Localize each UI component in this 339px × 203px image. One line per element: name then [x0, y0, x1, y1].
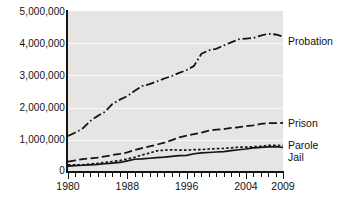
series-label-parole: Parole [288, 140, 318, 151]
x-tick-1991 [150, 173, 151, 177]
plot-area [68, 11, 283, 172]
x-tick-label-2009: 2009 [271, 181, 294, 192]
x-tick-1985 [105, 173, 106, 177]
x-tick-2000 [216, 173, 217, 177]
x-tick-1984 [98, 173, 99, 177]
x-tick-1999 [209, 173, 210, 177]
x-tick-1988 [127, 173, 128, 179]
x-tick-2006 [261, 173, 262, 177]
y-tick-label-1m: 1,000,000 [20, 135, 65, 145]
x-tick-label-1996: 1996 [175, 181, 198, 192]
series-line-probation [68, 34, 283, 136]
x-tick-2001 [224, 173, 225, 177]
y-axis-line [66, 10, 68, 173]
x-tick-label-1988: 1988 [116, 181, 139, 192]
x-tick-1983 [90, 173, 91, 177]
x-tick-2005 [253, 173, 254, 177]
x-tick-1980 [68, 173, 69, 179]
x-tick-1981 [75, 173, 76, 177]
x-tick-1990 [142, 173, 143, 177]
x-tick-1992 [157, 173, 158, 177]
x-tick-2007 [268, 173, 269, 177]
x-tick-2008 [276, 173, 277, 177]
series-plot [68, 11, 283, 172]
x-tick-2004 [246, 173, 247, 179]
x-tick-1982 [83, 173, 84, 177]
series-label-probation: Probation [288, 36, 333, 47]
y-tick-label-5m: 5,000,000 [20, 7, 65, 17]
x-tick-label-1980: 1980 [56, 181, 79, 192]
y-tick-label-0: 0 [59, 166, 65, 176]
x-tick-2003 [239, 173, 240, 177]
x-tick-1998 [201, 173, 202, 177]
line-chart: 5,000,000 4,000,000 3,000,000 2,000,000 … [0, 0, 339, 203]
series-label-prison: Prison [288, 118, 318, 129]
y-tick-label-2m: 2,000,000 [20, 103, 65, 113]
series-label-jail: Jail [288, 152, 304, 163]
x-axis-ticks [68, 173, 283, 179]
x-tick-1996 [187, 173, 188, 179]
x-tick-1997 [194, 173, 195, 177]
x-tick-label-2004: 2004 [234, 181, 257, 192]
y-tick-label-4m: 4,000,000 [20, 39, 65, 49]
x-tick-1987 [120, 173, 121, 177]
y-tick-label-3m: 3,000,000 [20, 71, 65, 81]
x-tick-1986 [112, 173, 113, 177]
x-tick-1993 [164, 173, 165, 177]
x-tick-2009 [283, 173, 284, 179]
x-tick-1995 [179, 173, 180, 177]
x-tick-1989 [135, 173, 136, 177]
x-tick-2002 [231, 173, 232, 177]
x-tick-1994 [172, 173, 173, 177]
